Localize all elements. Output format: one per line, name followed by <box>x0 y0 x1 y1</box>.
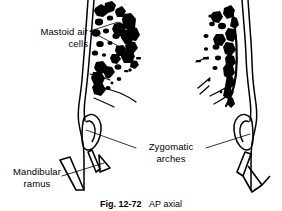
right-skull-outline <box>242 0 257 190</box>
label-mandibular-ramus: Mandibularramus <box>2 166 72 189</box>
figure-container: Mastoid aircells Zygomaticarches Mandibu… <box>0 0 282 211</box>
right-mandibular-ramus <box>237 152 270 192</box>
label-mastoid-air-cells: Mastoid aircells <box>10 26 88 49</box>
label-mastoid-air-cells-line1: Mastoid air <box>40 26 88 37</box>
right-pointer-strokes <box>196 57 210 94</box>
figure-caption-spacer <box>142 199 150 209</box>
figure-caption-text: AP axial <box>149 199 182 209</box>
label-mandibular-ramus-line1: Mandibular <box>13 166 61 177</box>
label-mandibular-ramus-line2: ramus <box>24 178 51 189</box>
figure-caption-number: Fig. 12-72 <box>100 199 142 209</box>
label-zygomatic-arches-line1: Zygomatic <box>149 141 194 152</box>
label-zygomatic-arches-line2: arches <box>156 153 185 164</box>
label-mastoid-air-cells-line2: cells <box>68 38 88 49</box>
left-mastoid-air-cells <box>91 1 141 96</box>
figure-caption: Fig. 12-72 AP axial <box>0 199 282 209</box>
label-zygomatic-arches: Zygomaticarches <box>138 141 204 164</box>
leader-zygomatic-right <box>206 134 250 148</box>
